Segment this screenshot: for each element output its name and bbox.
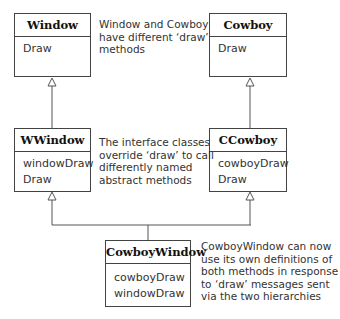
inheritance-arrow-icon [48, 192, 56, 200]
note-line: to ‘draw’ messages sent [201, 278, 338, 291]
note-line: The interface classes [99, 136, 214, 149]
method: cowboyDraw [218, 156, 286, 172]
method: Draw [23, 172, 90, 188]
method: cowboyDraw [114, 270, 190, 286]
class-cowboywindow: CowboyWindow cowboyDraw windowDraw [105, 240, 191, 307]
note-line: use its own definitions of [201, 253, 338, 266]
inheritance-arrow-icon [246, 192, 254, 200]
class-wwindow: WWindow windowDraw Draw [14, 128, 91, 192]
method: Draw [218, 172, 286, 188]
class-name: Cowboy [210, 14, 286, 37]
class-cowboy: Cowboy Draw [209, 13, 287, 77]
inheritance-arrow-icon [48, 78, 56, 86]
method: windowDraw [23, 156, 90, 172]
method: Draw [23, 41, 90, 57]
note-line: override ‘draw’ to call [99, 149, 214, 162]
method: Draw [218, 41, 286, 57]
class-name: WWindow [15, 129, 90, 152]
note-line: differently named [99, 161, 214, 174]
class-window: Window Draw [14, 13, 91, 77]
note-line: both methods in response [201, 265, 338, 278]
note-line: have different ‘draw’ [99, 31, 209, 44]
note-line: via the two hierarchies [201, 290, 338, 303]
note-middle: The interface classes override ‘draw’ to… [99, 136, 214, 186]
inheritance-arrow-icon [246, 78, 254, 86]
class-ccowboy: CCowboy cowboyDraw Draw [209, 128, 287, 192]
class-name: Window [15, 14, 90, 37]
note-line: CowboyWindow can now [201, 240, 338, 253]
method: windowDraw [114, 286, 190, 302]
class-name: CCowboy [210, 129, 286, 152]
note-bottom: CowboyWindow can now use its own definit… [201, 240, 338, 303]
note-line: methods [99, 43, 209, 56]
class-name: CowboyWindow [106, 241, 190, 264]
note-line: Window and Cowboy [99, 18, 209, 31]
note-line: abstract methods [99, 174, 214, 187]
note-top: Window and Cowboy have different ‘draw’ … [99, 18, 209, 56]
